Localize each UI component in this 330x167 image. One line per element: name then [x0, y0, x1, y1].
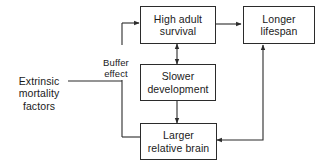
edge-label-buffer-effect-text: Buffer effect	[103, 57, 129, 80]
node-extrinsic-mortality-factors-label: Extrinsic mortality factors	[19, 75, 60, 112]
node-high-adult-survival[interactable]: High adult survival	[140, 6, 216, 44]
node-longer-lifespan[interactable]: Longer lifespan	[243, 6, 315, 44]
node-extrinsic-mortality-factors: Extrinsic mortality factors	[10, 62, 68, 112]
node-slower-development[interactable]: Slower development	[140, 64, 216, 101]
node-longer-lifespan-label: Longer lifespan	[261, 13, 298, 38]
node-larger-relative-brain-label: Larger relative brain	[148, 129, 210, 154]
diagram-canvas: High adult survival Longer lifespan Slow…	[0, 0, 330, 167]
node-high-adult-survival-label: High adult survival	[154, 13, 202, 38]
edge-larger-relative-brain-to-longer-lifespan	[217, 45, 263, 140]
node-slower-development-label: Slower development	[147, 70, 208, 95]
node-larger-relative-brain[interactable]: Larger relative brain	[140, 123, 217, 160]
edge-label-buffer-effect: Buffer effect	[98, 45, 134, 80]
